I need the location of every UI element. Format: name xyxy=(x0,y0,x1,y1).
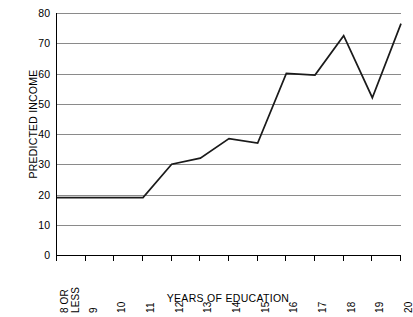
predicted-income-polyline xyxy=(57,24,401,198)
y-tick-label-60: 60 xyxy=(22,69,50,79)
y-axis-tick-labels: 01020304050607080 xyxy=(22,0,50,317)
x-tick-12 xyxy=(400,255,401,261)
y-tick-label-10: 10 xyxy=(22,220,50,230)
plot-area xyxy=(56,13,401,256)
x-axis-title: YEARS OF EDUCATION xyxy=(56,292,400,304)
y-tick-label-40: 40 xyxy=(22,129,50,139)
y-tick-label-70: 70 xyxy=(22,38,50,48)
x-tick-label-12: 20 xyxy=(404,302,413,313)
y-tick-label-50: 50 xyxy=(22,99,50,109)
income-education-line-chart: PREDICTED INCOME 01020304050607080 8 ORL… xyxy=(0,0,413,317)
x-tick-label-1: 9 xyxy=(89,307,100,313)
y-tick-label-20: 20 xyxy=(22,190,50,200)
y-tick-label-80: 80 xyxy=(22,8,50,18)
y-tick-label-0: 0 xyxy=(22,250,50,260)
y-tick-label-30: 30 xyxy=(22,159,50,169)
x-axis-tick-labels: 8 ORLESS91011121314151617181920 xyxy=(56,261,400,315)
data-series-line xyxy=(57,13,401,255)
